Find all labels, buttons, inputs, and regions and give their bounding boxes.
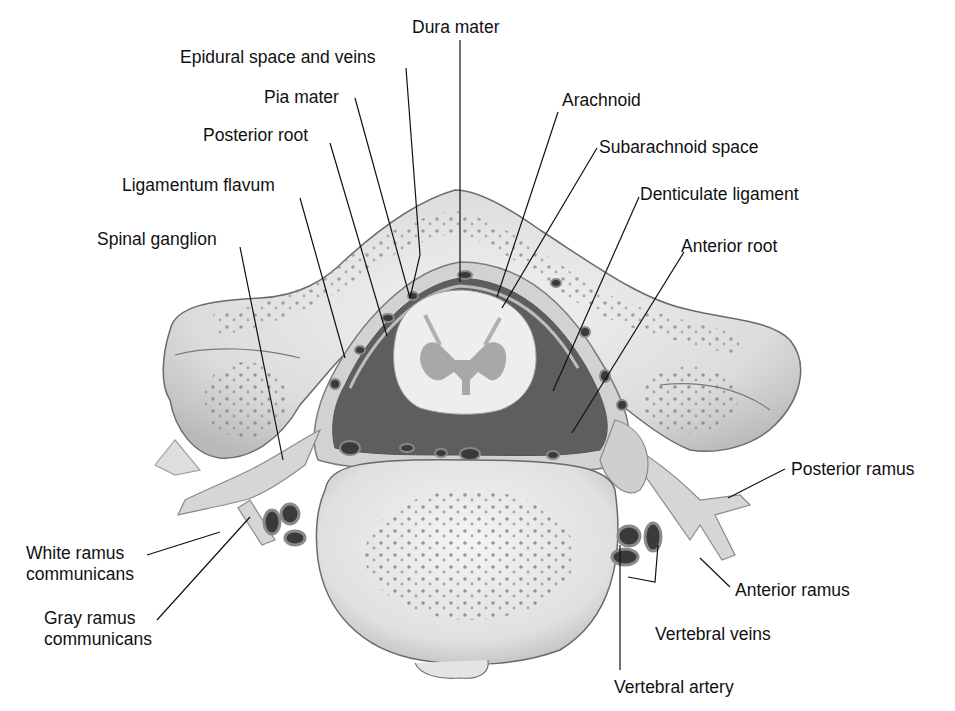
label-gray-ramus-line2: communicans	[44, 629, 152, 650]
vertebral-body	[316, 460, 618, 679]
vertebra-illustration	[0, 0, 955, 711]
label-ligamentum-flavum: Ligamentum flavum	[122, 175, 275, 196]
label-gray-ramus-communicans: Gray ramus communicans	[44, 608, 152, 650]
label-posterior-root: Posterior root	[203, 125, 308, 146]
label-gray-ramus-line1: Gray ramus	[44, 608, 152, 629]
label-vertebral-artery: Vertebral artery	[614, 677, 734, 698]
label-arachnoid: Arachnoid	[562, 90, 641, 111]
label-anterior-ramus: Anterior ramus	[735, 580, 850, 601]
label-spinal-ganglion: Spinal ganglion	[97, 229, 217, 250]
label-white-ramus-line1: White ramus	[26, 543, 134, 564]
label-anterior-root: Anterior root	[681, 236, 777, 257]
label-white-ramus-communicans: White ramus communicans	[26, 543, 134, 585]
diagram-canvas: Dura mater Epidural space and veins Pia …	[0, 0, 955, 711]
spinal-cord	[394, 290, 537, 414]
label-posterior-ramus: Posterior ramus	[791, 459, 915, 480]
label-subarachnoid-space: Subarachnoid space	[599, 137, 759, 158]
label-pia-mater: Pia mater	[264, 87, 339, 108]
label-vertebral-veins: Vertebral veins	[655, 624, 771, 645]
label-dura-mater: Dura mater	[412, 17, 500, 38]
label-epidural-space-and-veins: Epidural space and veins	[180, 47, 376, 68]
label-white-ramus-line2: communicans	[26, 564, 134, 585]
label-denticulate-ligament: Denticulate ligament	[640, 184, 799, 205]
